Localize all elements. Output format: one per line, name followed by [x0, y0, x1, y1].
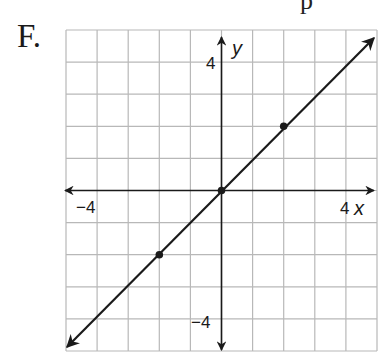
data-point	[156, 251, 164, 259]
data-point	[280, 123, 288, 131]
x-axis-label: x	[353, 197, 365, 219]
coordinate-plane: −4 4 4 −4 x y	[0, 0, 387, 354]
data-point	[218, 187, 226, 195]
y-axis-label: y	[230, 37, 243, 59]
x-tick-label-neg4: −4	[76, 198, 95, 217]
y-tick-label-neg4: −4	[191, 313, 210, 332]
y-tick-label-4: 4	[206, 54, 215, 73]
x-tick-label-4: 4	[340, 199, 349, 218]
